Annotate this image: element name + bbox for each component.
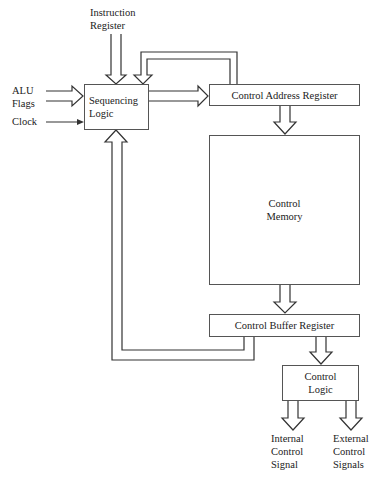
control-memory-text: Control Memory: [266, 197, 302, 223]
car-feedback-arrow: [134, 52, 237, 84]
seq-to-car-arrow: [148, 86, 208, 106]
instruction-register-label-line2: Register: [90, 19, 136, 32]
alu-flags-label-line1: ALU: [12, 84, 35, 97]
external-label-line2: Control: [333, 445, 369, 458]
memory-to-cbr-arrow: [274, 285, 296, 313]
sequencing-logic-text: Sequencing Logic: [89, 94, 138, 120]
control-logic-text: Control Logic: [304, 370, 336, 396]
external-signal-arrow: [340, 400, 362, 430]
sequencing-logic-line2: Logic: [89, 107, 138, 120]
clock-label: Clock: [12, 115, 37, 128]
control-buffer-register-block: Control Buffer Register: [209, 314, 360, 337]
control-logic-line1: Control: [304, 370, 336, 383]
control-memory-line1: Control: [266, 197, 302, 210]
instruction-register-label: Instruction Register: [90, 6, 136, 32]
external-control-signals-label: External Control Signals: [333, 432, 369, 471]
cbr-to-logic-arrow: [310, 337, 332, 364]
internal-control-signal-label: Internal Control Signal: [271, 432, 304, 471]
external-label-line1: External: [333, 432, 369, 445]
internal-label-line2: Control: [271, 445, 304, 458]
alu-flags-label: ALU Flags: [12, 84, 35, 110]
external-label-line3: Signals: [333, 458, 369, 471]
clock-arrowhead: [77, 119, 84, 125]
control-logic-block: Control Logic: [282, 365, 359, 401]
instruction-register-label-line1: Instruction: [90, 6, 136, 19]
control-memory-block: Control Memory: [209, 135, 360, 285]
alu-flags-label-line2: Flags: [12, 97, 35, 110]
control-memory-line2: Memory: [266, 210, 302, 223]
internal-label-line3: Signal: [271, 458, 304, 471]
instruction-register-arrow: [106, 34, 126, 84]
sequencing-logic-block: Sequencing Logic: [84, 84, 149, 130]
control-address-register-block: Control Address Register: [209, 84, 360, 106]
control-logic-line2: Logic: [304, 383, 336, 396]
internal-signal-arrow: [282, 400, 304, 430]
internal-label-line1: Internal: [271, 432, 304, 445]
sequencing-logic-line1: Sequencing: [89, 94, 138, 107]
alu-flags-arrow: [46, 86, 83, 106]
car-to-memory-arrow: [274, 106, 296, 134]
